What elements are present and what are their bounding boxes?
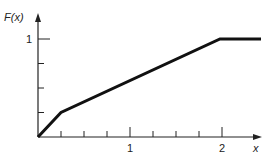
x-tick-label-1: 1	[127, 142, 133, 154]
y-axis-label: F(x)	[4, 11, 24, 23]
x-axis-label: x	[252, 142, 259, 154]
y-ticks	[38, 39, 50, 113]
x-tick-label-2: 2	[219, 142, 225, 154]
y-axis-arrow-icon	[35, 13, 41, 22]
x-ticks	[61, 127, 222, 137]
cdf-line	[38, 39, 261, 137]
x-axis-arrow-icon	[253, 134, 262, 140]
y-tick-label-1: 1	[26, 33, 32, 45]
cdf-chart: F(x) 1 1 2 x	[0, 0, 274, 159]
